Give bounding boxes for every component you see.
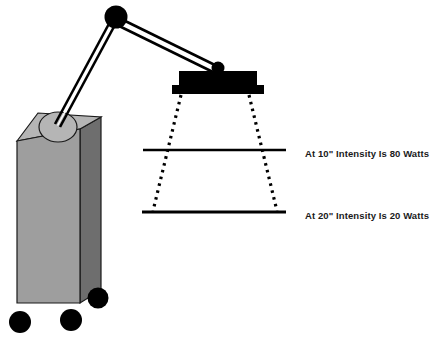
- cabinet-side-face: [80, 117, 101, 303]
- arm-upper-rail-inner: [113, 23, 217, 74]
- arm-lower-rail-gap: [58, 22, 114, 126]
- cabinet-front-face: [17, 129, 80, 303]
- caster-wheel-center: [60, 309, 82, 331]
- light-beam-cone: [153, 95, 277, 211]
- beam-edge-left: [153, 95, 181, 211]
- arm-lower-rail-outer: [55, 20, 111, 124]
- arm-lower-rail-inner: [60, 23, 116, 127]
- arm-upper-rail-gap: [114, 19, 218, 70]
- beam-edge-right: [249, 95, 277, 211]
- light-intensity-diagram: At 10" Intensity Is 80 Watts At 20" Inte…: [0, 0, 438, 338]
- callout-label-10in: At 10" Intensity Is 80 Watts: [305, 148, 429, 159]
- lamp-head-body: [179, 71, 257, 87]
- lamp-head-flange: [172, 85, 264, 94]
- callout-label-20in: At 20" Intensity Is 20 Watts: [305, 210, 429, 221]
- caster-wheel-left: [9, 311, 31, 333]
- elbow-pivot-ball: [105, 6, 128, 29]
- arm-upper-rail-outer: [115, 16, 219, 67]
- diagram-canvas: [0, 0, 438, 338]
- caster-wheel-right: [88, 288, 109, 309]
- lamp-head: [172, 62, 264, 95]
